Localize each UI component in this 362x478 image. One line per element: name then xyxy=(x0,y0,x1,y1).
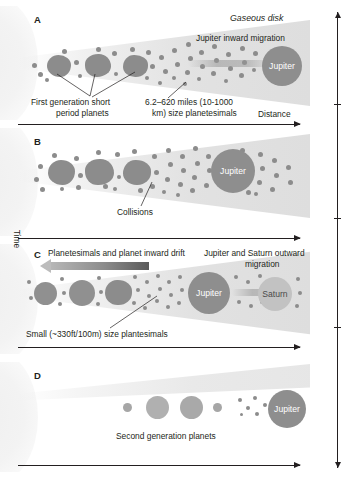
time-axis-tick xyxy=(334,327,341,328)
planet-formation-diagram: A Gaseous disk Jupiter inward migration xyxy=(0,0,362,478)
collisions-label: Collisions xyxy=(117,207,153,218)
panel-c: C Planetesimals and planet inward drift … xyxy=(0,244,310,354)
time-axis-tick xyxy=(334,218,341,219)
second-gen-planet-1 xyxy=(123,403,132,412)
panel-d: D Jupiter Second generation planets xyxy=(0,362,310,472)
residual-planetesimal xyxy=(263,403,267,407)
time-axis xyxy=(332,12,352,468)
disk-gradient xyxy=(18,364,310,402)
time-axis-label: Time xyxy=(12,230,22,248)
collisions-leader-line xyxy=(0,128,310,236)
residual-disk-wedge xyxy=(18,364,310,402)
second-gen-planet-3 xyxy=(180,396,203,419)
second-gen-planets-label: Second generation planets xyxy=(116,431,216,442)
planetesimal-size-label-line2: km) size planetesimals xyxy=(152,108,237,119)
time-axis-arrow-bottom xyxy=(335,462,341,468)
time-axis-tick xyxy=(334,104,341,105)
planetesimal-size-label-line1: 6.2–620 miles (10-1000 xyxy=(145,97,233,108)
panel-a: A Gaseous disk Jupiter inward migration xyxy=(0,6,310,120)
time-axis-line xyxy=(337,12,338,468)
residual-planetesimal xyxy=(240,413,243,416)
residual-planetesimal xyxy=(246,406,250,410)
distance-axis-b xyxy=(18,238,300,239)
time-axis-arrow-top xyxy=(335,12,341,18)
distance-axis-c xyxy=(18,347,300,348)
first-gen-label-line1: First generation short xyxy=(31,97,110,108)
jupiter-body: Jupiter xyxy=(268,390,306,428)
residual-planetesimal xyxy=(255,412,259,416)
residual-planetesimal xyxy=(238,398,242,402)
distance-axis-a xyxy=(18,124,300,125)
distance-axis-d xyxy=(18,465,300,466)
second-gen-planet-4 xyxy=(213,403,222,412)
first-gen-label-line2: period planets xyxy=(56,108,109,119)
residual-planetesimal xyxy=(253,396,257,400)
panel-d-letter: D xyxy=(34,370,41,381)
distance-label: Distance xyxy=(258,109,291,120)
panel-b: B xyxy=(0,128,310,236)
second-gen-planet-2 xyxy=(146,396,169,419)
small-planetesimal-label: Small (~330ft/100m) size plantesimals xyxy=(26,329,168,340)
